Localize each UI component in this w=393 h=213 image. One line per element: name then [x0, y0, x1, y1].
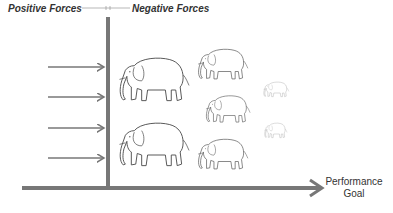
elephant-icon	[198, 49, 248, 79]
elephant-icon	[206, 96, 250, 122]
positive-force-arrows	[48, 67, 104, 158]
performance-goal-label: Performance Goal	[325, 176, 383, 200]
elephant-icon	[119, 58, 189, 101]
force-field-diagram: Positive Forces Negative Forces	[0, 0, 393, 213]
elephant-icon	[264, 82, 289, 97]
goal-label-line1: Performance	[325, 176, 383, 188]
elephant-icon	[198, 139, 248, 169]
elephant-icon	[264, 123, 287, 138]
status-quo-bar	[106, 17, 110, 189]
goal-label-line2: Goal	[325, 188, 383, 200]
elephant-icon	[119, 123, 189, 166]
